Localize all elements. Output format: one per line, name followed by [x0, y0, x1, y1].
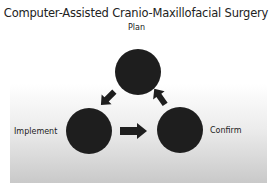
arrow-implement-to-confirm-icon — [120, 123, 147, 139]
arrow-plan-to-implement-icon — [96, 87, 119, 110]
arrow-confirm-to-plan-icon — [149, 85, 171, 109]
cycle-arrows — [0, 0, 272, 191]
